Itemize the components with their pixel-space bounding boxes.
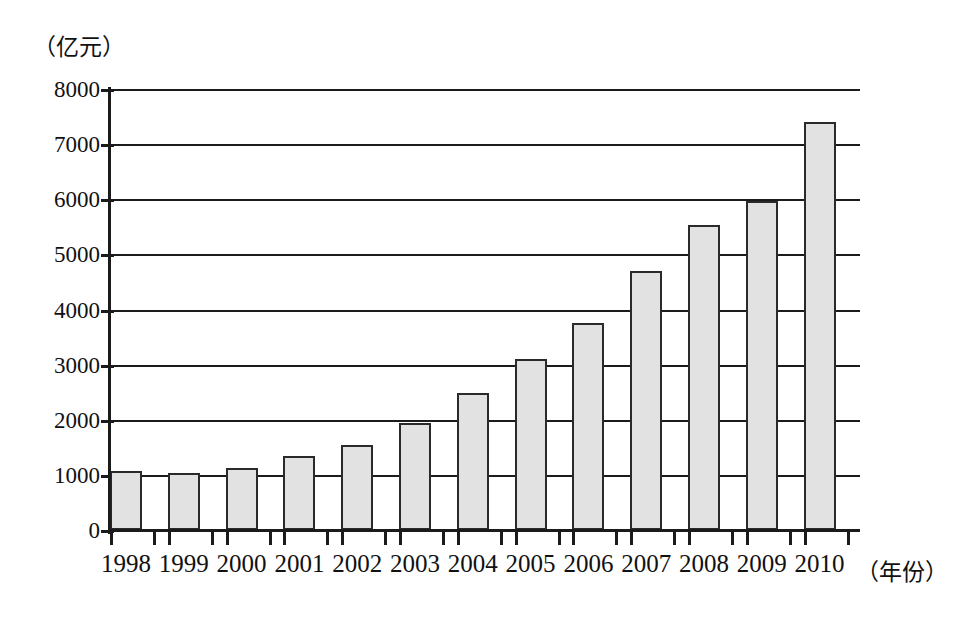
bar (572, 323, 604, 530)
x-axis-tick-mark (442, 531, 445, 545)
y-axis-tick-labels: 010002000300040005000600070008000 (18, 0, 100, 618)
x-axis-tick-label: 2004 (441, 551, 505, 576)
x-axis-tick-label: 2005 (499, 551, 563, 576)
x-axis-tick-labels: 1998199920002001200220032004200520062007… (0, 551, 971, 591)
y-axis-tick-label: 8000 (54, 78, 100, 101)
x-axis-tick-label: 2003 (383, 551, 447, 576)
x-axis-tick-mark (500, 531, 503, 545)
x-axis-tick-label: 2010 (788, 551, 852, 576)
x-axis-line (108, 529, 860, 532)
y-axis-tick-label: 1000 (54, 464, 100, 487)
x-axis-tick-mark (515, 531, 518, 545)
bar (688, 225, 720, 530)
x-axis-tick-mark (731, 531, 734, 545)
x-axis-tick-mark (283, 531, 286, 545)
x-axis-tick-mark (269, 531, 272, 545)
x-axis-tick-mark (558, 531, 561, 545)
x-axis-tick-mark (341, 531, 344, 545)
bar (110, 471, 142, 530)
bar (515, 359, 547, 530)
bar (457, 393, 489, 530)
y-axis-tick-label: 0 (89, 519, 101, 542)
bar (399, 423, 431, 530)
y-axis-tick-label: 6000 (54, 188, 100, 211)
x-axis-tick-mark (746, 531, 749, 545)
x-axis-tick-mark (211, 531, 214, 545)
x-axis-unit-label: （年份） (856, 553, 948, 587)
bar (283, 456, 315, 530)
bar (630, 271, 662, 530)
bar (804, 122, 836, 530)
x-axis-tick-label: 1999 (152, 551, 216, 576)
x-axis-tick-mark (168, 531, 171, 545)
x-axis-tick-mark (326, 531, 329, 545)
y-axis-tick-label: 3000 (54, 354, 100, 377)
x-axis-tick-label: 2009 (730, 551, 794, 576)
x-axis-tick-mark (804, 531, 807, 545)
y-axis-tick-label: 4000 (54, 299, 100, 322)
x-axis-tick-label: 2008 (672, 551, 736, 576)
x-axis-tick-mark (457, 531, 460, 545)
y-axis-line (108, 87, 111, 534)
x-axis-tick-label: 1998 (94, 551, 158, 576)
x-axis-tick-label: 2002 (325, 551, 389, 576)
x-axis-tick-mark (615, 531, 618, 545)
bar (168, 473, 200, 530)
x-axis-tick-mark (384, 531, 387, 545)
x-axis-tick-mark (572, 531, 575, 545)
x-axis-tick-mark (153, 531, 156, 545)
bar (226, 468, 258, 530)
x-axis-tick-mark (226, 531, 229, 545)
x-axis-tick-label: 2000 (210, 551, 274, 576)
x-axis-tick-label: 2006 (556, 551, 620, 576)
x-axis-tick-mark (399, 531, 402, 545)
x-axis-tick-mark (673, 531, 676, 545)
bar (746, 201, 778, 530)
x-axis-tick-label: 2001 (267, 551, 331, 576)
x-axis-tick-mark (789, 531, 792, 545)
y-axis-tick-label: 7000 (54, 133, 100, 156)
x-axis-tick-mark (688, 531, 691, 545)
gridline (108, 144, 860, 146)
x-axis-tick-mark (847, 531, 850, 545)
bar (341, 445, 373, 530)
x-axis-tick-mark (630, 531, 633, 545)
y-axis-tick-label: 5000 (54, 243, 100, 266)
gridline (108, 89, 860, 91)
bar-chart: （亿元） 010002000300040005000600070008000 1… (0, 0, 971, 618)
y-axis-tick-label: 2000 (54, 409, 100, 432)
x-axis-tick-label: 2007 (614, 551, 678, 576)
